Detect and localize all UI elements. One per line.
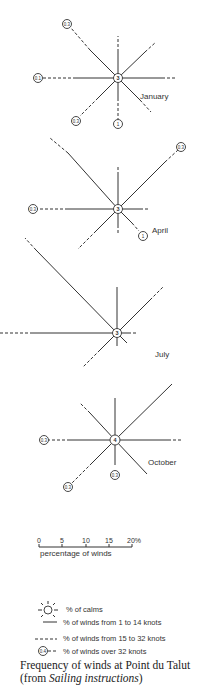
scale-tick-0: 0 xyxy=(37,537,41,544)
legend-calms-text: % of calms xyxy=(66,605,103,614)
rose-july: 3 xyxy=(0,238,163,367)
svg-text:0.3: 0.3 xyxy=(30,207,37,212)
svg-text:0.1: 0.1 xyxy=(35,76,42,81)
label-july: July xyxy=(155,350,169,359)
legend-circle-icon: 0.4 xyxy=(39,647,58,656)
svg-text:0.3: 0.3 xyxy=(112,473,119,478)
svg-text:3: 3 xyxy=(116,206,119,212)
legend-strong-text: % of winds over 32 knots xyxy=(63,647,146,656)
scale-tick-10: 10 xyxy=(82,537,90,544)
scale-axis-label: percentage of winds xyxy=(40,549,112,558)
svg-text:0.3: 0.3 xyxy=(73,119,80,124)
legend-light-text: % of winds from 1 to 14 knots xyxy=(63,618,161,627)
scale-tick-20: 20% xyxy=(127,537,141,544)
label-january: January xyxy=(140,92,168,101)
legend-calms-icon xyxy=(38,601,58,617)
rose-january: 3 1 0.3 0.1 0.3 xyxy=(34,20,176,129)
scale-tick-5: 5 xyxy=(60,537,64,544)
svg-text:3: 3 xyxy=(115,330,118,336)
svg-text:3: 3 xyxy=(116,75,119,81)
source-title: Sailing instructions xyxy=(49,672,139,684)
wind-roses-diagram: .s { stroke: #333; stroke-width: 1; fill… xyxy=(0,0,198,687)
figure-caption-line1: Frequency of winds at Point du Talut xyxy=(20,659,190,671)
svg-text:0.4: 0.4 xyxy=(40,649,47,654)
legend-moderate-text: % of winds from 15 to 32 knots xyxy=(63,634,166,643)
svg-text:0.3: 0.3 xyxy=(65,485,72,490)
label-april: April xyxy=(152,226,168,235)
scale-bar xyxy=(39,544,132,547)
svg-text:0.3: 0.3 xyxy=(41,438,48,443)
svg-text:0.3: 0.3 xyxy=(178,145,185,150)
label-october: October xyxy=(148,458,176,467)
scale-tick-15: 15 xyxy=(105,537,113,544)
figure-caption-line2: (from Sailing instructions) xyxy=(20,672,143,684)
svg-text:0.3: 0.3 xyxy=(64,22,71,27)
rose-october: 4 0.3 0.3 0.3 xyxy=(40,384,183,492)
